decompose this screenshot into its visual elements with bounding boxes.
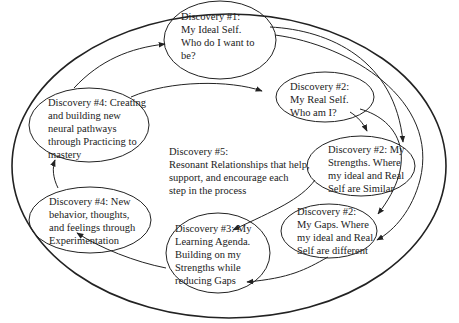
node-discovery-1-label: Discovery #1: My Ideal Self. Who do I wa…	[181, 10, 255, 62]
node-discovery-2-strengths-label: Discovery #2: My Strengths. Where my ide…	[328, 143, 404, 195]
edge-d4new-d4creating	[53, 160, 58, 188]
node-discovery-2-real-self-label: Discovery #2: My Real Self. Who am I?	[290, 80, 349, 119]
edge-d2gaps-d3	[247, 257, 328, 282]
edge-d1-d2real	[131, 83, 262, 97]
node-discovery-2-gaps-label: Discovery #2: My Gaps. Where my ideal an…	[297, 205, 373, 257]
node-discovery-4-creating-label: Discovery #4: Creating and building new …	[48, 96, 146, 161]
node-discovery-3-label: Discovery #3: My Learning Agenda. Buildi…	[175, 222, 251, 287]
node-discovery-4-new-behavior-label: Discovery #4: New behavior, thoughts, an…	[49, 195, 135, 247]
center-discovery-5-label: Discovery #5: Resonant Relationships tha…	[169, 145, 310, 197]
